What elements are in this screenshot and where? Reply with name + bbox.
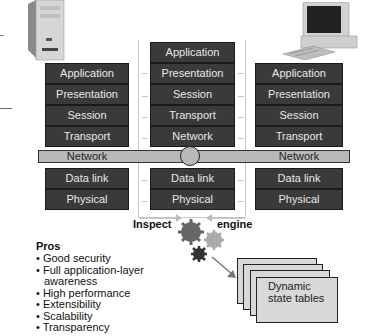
bracket-tick <box>238 73 244 74</box>
layer-transport: Transport <box>45 126 129 147</box>
pros-item: Transparency <box>36 322 154 334</box>
layer-datalink: Data link <box>255 168 343 189</box>
state-tables-line1: Dynamic <box>268 280 324 292</box>
bracket-tick <box>142 201 148 202</box>
bracket-tick <box>142 117 148 118</box>
layer-application: Application <box>150 42 235 63</box>
bracket-tick <box>238 138 244 139</box>
inspection-point-circle <box>180 146 200 166</box>
state-tables-line2: state tables <box>268 292 324 304</box>
firewall-stack: Application Presentation Session Transpo… <box>150 42 235 212</box>
inspect-label: Inspect <box>133 218 172 230</box>
layer-application: Application <box>45 63 129 84</box>
engine-to-tables-arrow <box>210 255 240 281</box>
layer-application: Application <box>255 63 343 84</box>
right-host-stack: Application Presentation Session Transpo… <box>255 63 343 211</box>
bracket-tick <box>142 73 148 74</box>
state-tables-label: Dynamic state tables <box>268 280 324 304</box>
pros-list: Good security Full application-layer awa… <box>36 253 154 334</box>
right-network-label: Network <box>255 150 343 163</box>
left-host-stack: Application Presentation Session Transpo… <box>45 63 129 211</box>
pros-title: Pros <box>36 240 60 252</box>
layer-physical: Physical <box>45 189 129 210</box>
layer-session: Session <box>150 84 235 105</box>
layer-transport: Transport <box>255 126 343 147</box>
bracket-tick <box>238 117 244 118</box>
desktop-computer-icon <box>283 2 363 60</box>
server-tower-icon <box>28 0 66 62</box>
edge-line-bottom <box>0 108 12 109</box>
edge-line-top <box>0 35 4 36</box>
bracket-tick <box>238 201 244 202</box>
layer-presentation: Presentation <box>150 63 235 84</box>
layer-transport: Transport <box>150 105 235 126</box>
layer-session: Session <box>45 105 129 126</box>
pros-item: Full application-layer awareness <box>36 265 154 288</box>
layer-datalink: Data link <box>45 168 129 189</box>
bracket-tick <box>238 180 244 181</box>
bracket-tick <box>142 180 148 181</box>
layer-session: Session <box>255 105 343 126</box>
layer-datalink: Data link <box>150 168 235 189</box>
left-network-label: Network <box>45 150 129 163</box>
bracket-tick <box>142 96 148 97</box>
layer-network: Network <box>150 126 235 147</box>
layer-physical: Physical <box>150 189 235 210</box>
pros-item: Extensibility <box>36 299 154 311</box>
bracket-tick <box>238 96 244 97</box>
pros-item: Good security <box>36 253 154 265</box>
layer-presentation: Presentation <box>45 84 129 105</box>
layer-physical: Physical <box>255 189 343 210</box>
bracket-tick <box>142 138 148 139</box>
layer-presentation: Presentation <box>255 84 343 105</box>
